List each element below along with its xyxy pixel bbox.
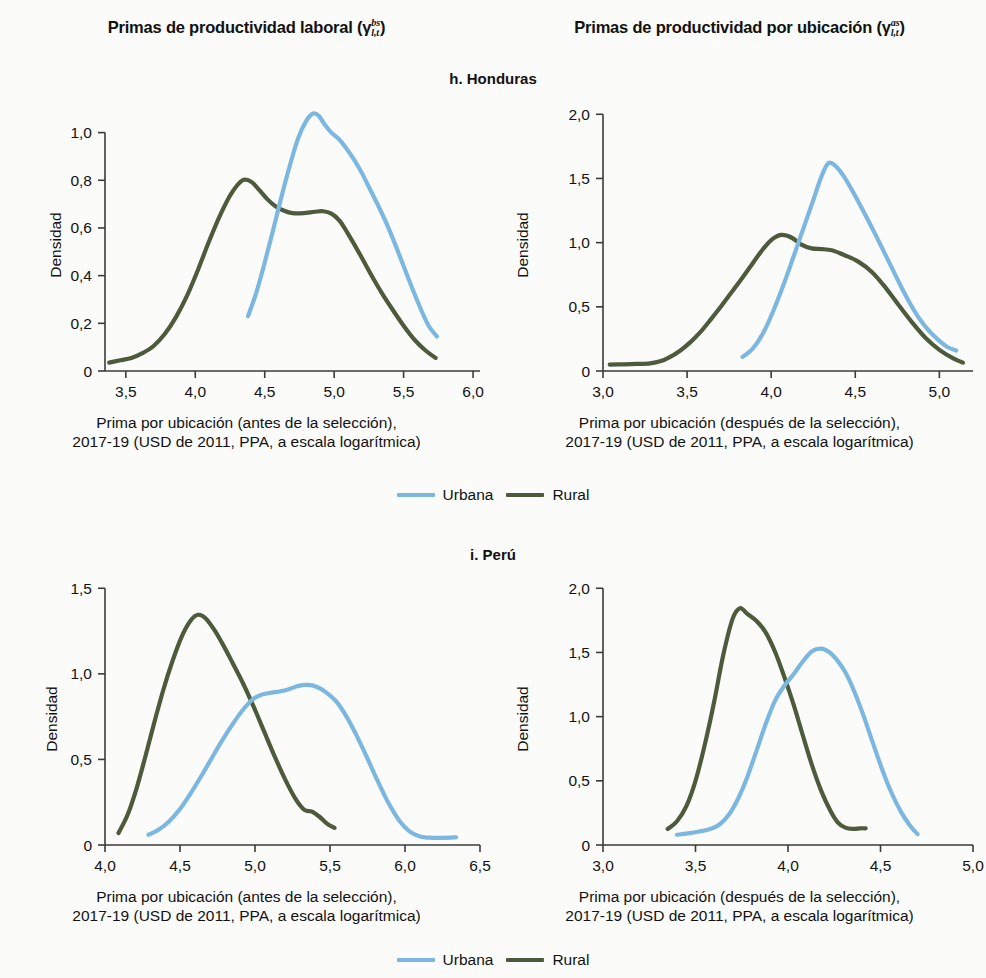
series-line-urbana [149, 685, 457, 838]
xtick-label: 4,0 [94, 857, 116, 874]
ylabel-honduras-after: Densidad [514, 185, 532, 305]
ytick-label: 1,5 [70, 580, 92, 597]
panel-title-honduras: h. Honduras [0, 70, 986, 87]
ytick-label: 0 [581, 837, 590, 854]
xcaption-peru-before: Prima por ubicación (antes de la selecci… [0, 887, 493, 926]
gamma-subscript-lt: l,t [371, 28, 380, 38]
column-title-left-text: Primas de productividad laboral (γ [108, 18, 372, 36]
column-title-right-text: Primas de productividad por ubicación (γ [574, 18, 891, 36]
xtick-label: 6,0 [462, 383, 484, 400]
xtick-label: 3,5 [676, 383, 698, 400]
panel-honduras-before: 00,20,40,60,81,03,54,04,55,05,56,0 [0, 96, 493, 386]
ytick-label: 0 [83, 837, 92, 854]
plot-honduras-before: 00,20,40,60,81,03,54,04,55,05,56,0 [0, 96, 493, 386]
plot-peru-before: 00,51,01,54,04,55,05,56,06,5 [0, 570, 493, 860]
legend-swatch-rural [506, 958, 544, 962]
xtick-label: 4,0 [184, 383, 206, 400]
ylabel-peru-before: Densidad [43, 659, 61, 779]
xtick-label: 5,5 [393, 383, 415, 400]
legend-label-urbana: Urbana [443, 486, 494, 504]
xtick-label: 5,0 [323, 383, 345, 400]
xcaption-line1: Prima por ubicación (después de la selec… [493, 887, 986, 906]
xtick-label: 3,5 [115, 383, 137, 400]
series-line-rural [119, 615, 335, 833]
ytick-label: 1,5 [568, 644, 590, 661]
column-title-right: Primas de productividad por ubicación (γ… [493, 18, 986, 38]
legend-entry-urbana: Urbana [397, 951, 494, 969]
ytick-label: 0,5 [568, 772, 590, 789]
gamma-bs-indices: bsl,t [371, 18, 380, 37]
ytick-label: 0,8 [70, 172, 92, 189]
xtick-label: 3,0 [592, 857, 614, 874]
xtick-label: 5,0 [929, 383, 951, 400]
xtick-label: 5,0 [244, 857, 266, 874]
series-line-rural [109, 179, 435, 362]
legend-label-urbana: Urbana [443, 951, 494, 969]
ytick-label: 0,5 [568, 298, 590, 315]
figure-root: Primas de productividad laboral (γbsl,t)… [0, 0, 986, 978]
xtick-label: 4,5 [169, 857, 191, 874]
xcaption-line1: Prima por ubicación (antes de la selecci… [0, 413, 493, 432]
xtick-label: 3,0 [592, 383, 614, 400]
xtick-label: 4,5 [254, 383, 276, 400]
ytick-label: 1,0 [568, 234, 590, 251]
ylabel-honduras-before: Densidad [47, 185, 65, 305]
panel-honduras-after: 00,51,01,52,03,03,54,04,55,0 [493, 96, 986, 386]
column-title-right-close: ) [899, 18, 904, 36]
xcaption-honduras-before: Prima por ubicación (antes de la selecci… [0, 413, 493, 452]
legend-swatch-rural [506, 493, 544, 497]
xtick-label: 4,0 [760, 383, 782, 400]
xcaption-line1: Prima por ubicación (después de la selec… [493, 413, 986, 432]
xcaption-peru-after: Prima por ubicación (después de la selec… [493, 887, 986, 926]
ytick-label: 0,6 [70, 219, 92, 236]
legend-label-rural: Rural [552, 486, 589, 504]
legend-bottom: Urbana Rural [0, 951, 986, 969]
legend-entry-rural: Rural [506, 486, 589, 504]
xtick-label: 4,5 [870, 857, 892, 874]
series-line-urbana [677, 649, 918, 835]
plot-honduras-after: 00,51,01,52,03,03,54,04,55,0 [493, 96, 986, 386]
panel-title-peru: i. Perú [0, 546, 986, 563]
ytick-label: 0,5 [70, 751, 92, 768]
plot-peru-after: 00,51,01,52,03,03,54,04,55,0 [493, 570, 986, 860]
legend-swatch-urbana [397, 958, 435, 962]
xcaption-line1: Prima por ubicación (antes de la selecci… [0, 887, 493, 906]
ytick-label: 1,0 [70, 665, 92, 682]
ytick-label: 0,2 [70, 315, 92, 332]
ytick-label: 0,4 [70, 267, 92, 284]
legend-entry-rural: Rural [506, 951, 589, 969]
xtick-label: 5,5 [319, 857, 341, 874]
ytick-label: 0 [83, 363, 92, 380]
xtick-label: 5,0 [962, 857, 984, 874]
column-title-left: Primas de productividad laboral (γbsl,t) [0, 18, 493, 38]
xcaption-line2: 2017-19 (USD de 2011, PPA, a escala loga… [493, 432, 986, 451]
xtick-label: 6,0 [394, 857, 416, 874]
legend-top: Urbana Rural [0, 486, 986, 504]
legend-swatch-urbana [397, 493, 435, 497]
column-title-left-close: ) [380, 18, 385, 36]
panel-peru-after: 00,51,01,52,03,03,54,04,55,0 [493, 570, 986, 860]
ytick-label: 0 [581, 363, 590, 380]
xtick-label: 4,5 [844, 383, 866, 400]
series-line-urbana [743, 162, 957, 356]
xtick-label: 6,5 [469, 857, 491, 874]
xcaption-line2: 2017-19 (USD de 2011, PPA, a escala loga… [0, 432, 493, 451]
legend-entry-urbana: Urbana [397, 486, 494, 504]
ylabel-peru-after: Densidad [514, 659, 532, 779]
xcaption-honduras-after: Prima por ubicación (después de la selec… [493, 413, 986, 452]
xtick-label: 3,5 [685, 857, 707, 874]
legend-label-rural: Rural [552, 951, 589, 969]
ytick-label: 1,0 [568, 708, 590, 725]
ytick-label: 1,5 [568, 170, 590, 187]
ytick-label: 1,0 [70, 124, 92, 141]
ytick-label: 2,0 [568, 580, 590, 597]
ytick-label: 2,0 [568, 106, 590, 123]
xtick-label: 4,0 [777, 857, 799, 874]
panel-peru-before: 00,51,01,54,04,55,05,56,06,5 [0, 570, 493, 860]
xcaption-line2: 2017-19 (USD de 2011, PPA, a escala loga… [0, 906, 493, 925]
xcaption-line2: 2017-19 (USD de 2011, PPA, a escala loga… [493, 906, 986, 925]
